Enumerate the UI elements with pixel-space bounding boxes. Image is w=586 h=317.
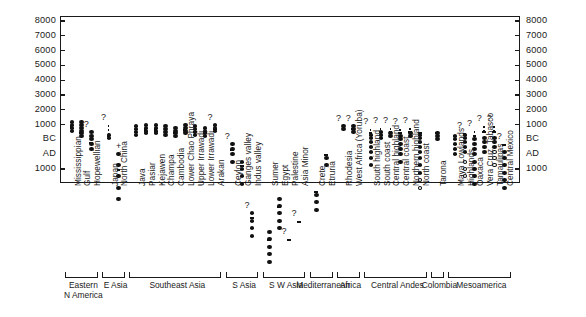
region-groups: Eastern N AmericaE AsiaSoutheast AsiaS A… <box>0 0 586 317</box>
region-bracket <box>226 272 259 278</box>
region-bracket <box>263 272 306 278</box>
y-tick-mark-left-4000 <box>60 80 65 81</box>
region-bracket <box>448 272 510 278</box>
region-bracket <box>431 272 444 278</box>
y-tick-mark-left-6000 <box>60 50 65 51</box>
region-bracket <box>129 272 221 278</box>
region-bracket <box>337 272 360 278</box>
y-tick-mark-right-3000 <box>515 94 520 95</box>
y-tick-mark-right-4000 <box>515 80 520 81</box>
y-tick-mark-right-6000 <box>515 50 520 51</box>
region-bracket <box>65 272 98 278</box>
y-tick-mark-right-2000 <box>515 109 520 110</box>
y-tick-mark-left-2000 <box>60 109 65 110</box>
y-tick-mark-left-5000 <box>60 65 65 66</box>
y-tick-mark-right-7000 <box>515 35 520 36</box>
region-bracket <box>364 272 426 278</box>
y-tick-mark-right-1000 <box>515 168 520 169</box>
y-tick-mark-left-8000 <box>60 20 65 21</box>
y-tick-mark-left-1000 <box>60 168 65 169</box>
chart-root: 80007000600050004000300020001000BCAD1000… <box>0 0 586 317</box>
y-tick-mark-right-5000 <box>515 65 520 66</box>
region-label: Mesoamerica <box>424 281 538 291</box>
y-tick-mark-right-8000 <box>515 20 520 21</box>
region-bracket <box>102 272 125 278</box>
y-tick-mark-left-1000 <box>60 124 65 125</box>
y-tick-mark-left-7000 <box>60 35 65 36</box>
region-bracket <box>310 272 333 278</box>
y-tick-mark-left-3000 <box>60 94 65 95</box>
y-tick-mark-right-1000 <box>515 124 520 125</box>
